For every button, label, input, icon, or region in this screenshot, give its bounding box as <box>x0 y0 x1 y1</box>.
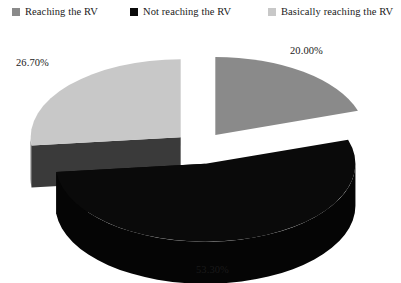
legend-swatch-icon-basically-reaching-the-rv <box>268 8 276 16</box>
legend-swatch-icon-reaching-the-rv <box>12 8 20 16</box>
data-label-slice-reaching-the-rv: 20.00% <box>290 46 323 57</box>
chart-legend: Reaching the RV Not reaching the RV Basi… <box>0 0 401 30</box>
pie-slice-basically-reaching-the-rv[interactable] <box>31 59 181 145</box>
pie-plot-area: 20.00% 53.30% 26.70% <box>0 28 401 283</box>
legend-item-not-reaching-the-rv[interactable]: Not reaching the RV <box>130 7 231 18</box>
legend-label-basically-reaching-the-rv: Basically reaching the RV <box>281 7 393 18</box>
legend-item-reaching-the-rv[interactable]: Reaching the RV <box>12 7 98 18</box>
data-label-slice-not-reaching-the-rv: 53.30% <box>196 265 229 276</box>
pie-svg-canvas <box>0 28 401 283</box>
legend-item-basically-reaching-the-rv[interactable]: Basically reaching the RV <box>268 7 393 18</box>
legend-label-reaching-the-rv: Reaching the RV <box>25 7 98 18</box>
pie-chart-figure: Reaching the RV Not reaching the RV Basi… <box>0 0 401 283</box>
pie-slice-reaching-the-rv[interactable] <box>215 57 358 135</box>
data-label-slice-basically-reaching-the-rv: 26.70% <box>16 58 49 69</box>
legend-label-not-reaching-the-rv: Not reaching the RV <box>143 7 231 18</box>
pie-slice-layer <box>31 57 358 283</box>
legend-swatch-icon-not-reaching-the-rv <box>130 8 138 16</box>
